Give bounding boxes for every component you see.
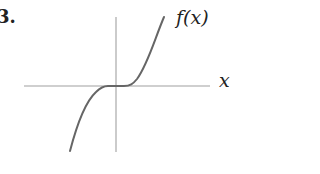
x-axis-label: x bbox=[219, 69, 230, 91]
function-curve bbox=[70, 17, 164, 151]
curve-label: f(x) bbox=[176, 6, 209, 28]
